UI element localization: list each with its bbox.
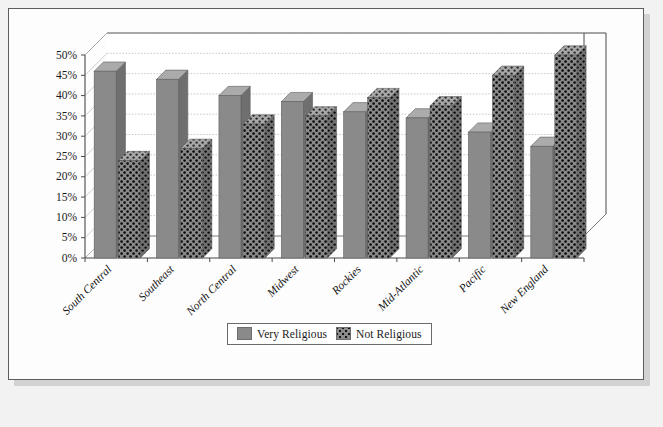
bar-south-central-not-religious [118,151,149,258]
chart-legend: Very Religious Not Religious [227,323,432,345]
x-label-pacific: Pacific [456,263,489,296]
bar-southeast-not-religious [181,139,212,258]
svg-text:0%: 0% [62,252,78,264]
bar-mid-atlantic-not-religious [430,97,461,258]
x-label-mid-atlantic: Mid-Atlantic [375,263,426,314]
page-sheet: 0%5%10%15%20%25%30%35%40%45%50% South Ce… [8,8,644,380]
x-label-rockies: Rockies [329,263,364,298]
svg-text:25%: 25% [56,150,78,162]
bar-midwest-not-religious [305,107,336,258]
x-axis-tick-marks [85,258,584,262]
x-label-south-central: South Central [60,263,114,317]
legend-swatch-not-religious [336,327,351,340]
bar-north-central-not-religious [243,115,274,258]
svg-text:10%: 10% [56,211,78,223]
x-label-north-central: North Central [183,263,238,318]
svg-text:20%: 20% [56,170,78,182]
svg-text:30%: 30% [56,130,78,142]
svg-text:40%: 40% [56,89,78,101]
x-axis-category-labels: South CentralSoutheastNorth CentralMidwe… [60,262,551,318]
x-label-midwest: Midwest [264,262,301,299]
scanned-page-background: 0%5%10%15%20%25%30%35%40%45%50% South Ce… [0,0,663,427]
x-label-southeast: Southeast [136,262,177,303]
legend-swatch-very-religious [237,327,252,340]
svg-text:5%: 5% [62,231,78,243]
legend-label-not-religious: Not Religious [356,328,422,340]
legend-item-very-religious: Very Religious [237,327,327,340]
svg-text:15%: 15% [56,191,78,203]
bar-new-england-not-religious [555,46,586,258]
y-axis-tick-labels: 0%5%10%15%20%25%30%35%40%45%50% [56,49,85,264]
legend-item-not-religious: Not Religious [336,327,422,340]
svg-text:50%: 50% [56,49,78,61]
x-label-new-england: New England [497,263,551,317]
bar-pacific-not-religious [492,66,523,258]
bar-rockies-not-religious [368,88,399,258]
svg-text:35%: 35% [56,110,78,122]
svg-text:45%: 45% [56,69,78,81]
legend-label-very-religious: Very Religious [257,328,327,340]
